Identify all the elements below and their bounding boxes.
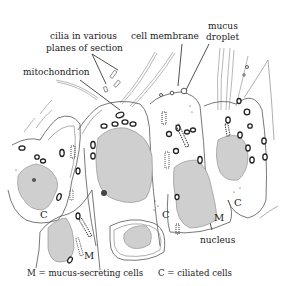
nucleus-bottom-left — [48, 218, 74, 262]
nucleus-right — [216, 136, 248, 181]
svg-text:planes of section: planes of section — [46, 43, 123, 53]
svg-text:mucus: mucus — [208, 21, 238, 31]
marker-c-left: C — [40, 209, 48, 220]
label-cell-membrane: cell membrane — [131, 31, 199, 41]
marker-m-left: M — [84, 250, 94, 261]
legend-mucus-secreting: M = mucus-secreting cells — [27, 268, 143, 278]
nucleus-bubble — [124, 226, 152, 249]
marker-c-right: C — [234, 197, 242, 208]
nucleus-left — [18, 164, 58, 210]
label-mitochondrion: mitochondrion — [23, 67, 90, 77]
legend-ciliated: C = ciliated cells — [158, 268, 232, 278]
nucleolus — [101, 190, 107, 196]
marker-m-center: M — [214, 212, 224, 223]
svg-text:cilia in various: cilia in various — [50, 31, 117, 41]
label-nucleus: nucleus — [200, 235, 236, 245]
label-cilia: cilia in various planes of section — [46, 31, 123, 53]
marker-c-center: C — [162, 209, 170, 220]
diagram-canvas: cilia in various planes of section cell … — [0, 0, 287, 286]
nucleus-mucus-center — [173, 160, 216, 228]
svg-text:droplet: droplet — [206, 32, 239, 42]
label-mucus-droplet: mucus droplet — [206, 21, 239, 42]
cilia — [24, 48, 248, 132]
